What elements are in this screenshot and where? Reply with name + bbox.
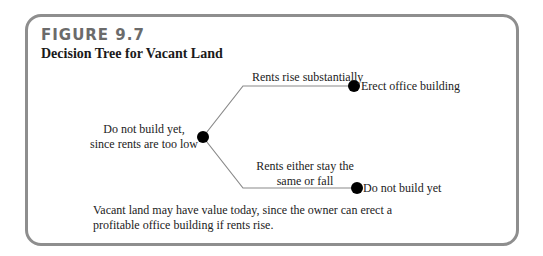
outcome-label-do-not-build: Do not build yet	[363, 181, 441, 196]
edge-rents-rise	[203, 86, 353, 137]
figure-caption: Vacant land may have value today, since …	[93, 203, 423, 233]
root-decision-node	[197, 131, 209, 143]
outcome-label-erect-building: Erect office building	[361, 79, 460, 94]
branch-label-rents-stay-or-fall: Rents either stay the same or fall	[255, 159, 355, 189]
root-node-label: Do not build yet, since rents are too lo…	[90, 122, 198, 152]
branch-label-rents-rise: Rents rise substantially	[252, 70, 363, 85]
